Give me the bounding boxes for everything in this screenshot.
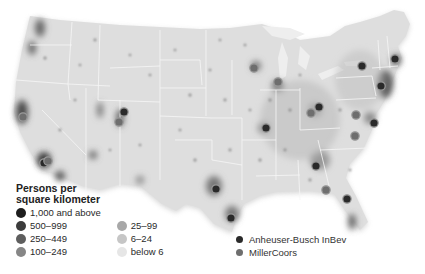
millercoors-brewery-marker [44,157,52,165]
population-density-legend: Persons per square kilometer 1,000 and a… [16,183,164,258]
anheuser-busch-brewery-marker [377,82,385,90]
swatch-circle-icon [16,208,26,218]
anheuser-busch-brewery-marker [262,124,270,132]
swatch-circle-icon [16,247,26,257]
millercoors-brewery-marker [274,78,282,86]
marker-dot-icon [236,236,243,243]
legend-title: Persons per square kilometer [16,183,136,205]
swatch-circle-icon [16,234,26,244]
millercoors-brewery-marker [322,186,330,194]
marker-dot-icon [236,249,243,256]
legend-item-millercoors: MillerCoors [236,246,346,259]
swatch-circle-icon [117,221,127,231]
millercoors-brewery-marker [351,132,359,140]
brewery-legend: Anheuser-Busch InBev MillerCoors [236,233,346,259]
millercoors-brewery-marker [19,113,27,121]
legend-item-anheuser-busch: Anheuser-Busch InBev [236,233,346,246]
anheuser-busch-brewery-marker [212,185,220,193]
legend-title-line2: square kilometer [16,194,136,205]
legend-item-6-24: 6–24 [117,232,164,245]
swatch-circle-icon [16,221,26,231]
anheuser-busch-brewery-marker [391,55,399,63]
anheuser-busch-brewery-marker [227,214,235,222]
anheuser-busch-brewery-marker [370,119,378,127]
millercoors-brewery-marker [352,111,360,119]
swatch-circle-icon [117,234,127,244]
anheuser-busch-brewery-marker [312,162,320,170]
millercoors-brewery-marker [250,64,258,72]
legend-item-100-249: 100–249 [16,245,101,258]
us-population-map: Persons per square kilometer 1,000 and a… [0,0,425,274]
legend-item-250-449: 250–449 [16,232,101,245]
legend-item-below-6: below 6 [117,245,164,258]
anheuser-busch-brewery-marker [315,103,323,111]
anheuser-busch-brewery-marker [358,62,366,70]
legend-item-500-999: 500–999 [16,219,101,232]
millercoors-brewery-marker [307,109,315,117]
millercoors-brewery-marker [115,118,123,126]
anheuser-busch-brewery-marker [120,108,128,116]
anheuser-busch-brewery-marker [343,195,351,203]
swatch-circle-icon [117,247,127,257]
legend-item-1000-above: 1,000 and above [16,206,101,219]
legend-item-25-99: 25–99 [117,219,164,232]
